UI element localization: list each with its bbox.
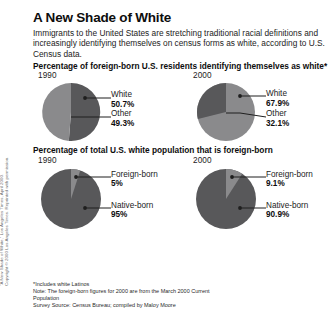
footnote-includes-latinos: *Includes white Latinos xyxy=(33,281,323,288)
slice-label-foreign-born: Foreign-born 5% xyxy=(111,170,158,189)
slice-label-other: Other 32.1% xyxy=(266,109,289,128)
chart-year-label: 1990 xyxy=(38,156,107,165)
chart-year-label: 2000 xyxy=(193,156,262,165)
section1-heading: Percentage of foreign-born U.S. resident… xyxy=(33,61,329,71)
page-title: A New Shade of White xyxy=(33,10,329,25)
leader-lines-2000-white xyxy=(226,81,302,143)
leader-lines-1990-white xyxy=(71,81,147,143)
chart-panel-2000-white: 2000 xyxy=(190,71,262,143)
slice-label-native-born: Native-born 90.9% xyxy=(266,201,308,220)
footnotes: *Includes white Latinos Note: The foreig… xyxy=(33,281,323,309)
section2-charts: 1990 Foreign-born xyxy=(33,156,329,231)
copyright-credit: "A New Shade of White," Los Angeles Time… xyxy=(0,96,15,286)
footnote-note-line2: Population xyxy=(33,295,323,302)
chart-panel-1990-white: 1990 White xyxy=(35,71,107,143)
slice-label-white: White 67.9% xyxy=(266,89,289,108)
chart-panel-1990-foreignborn: 1990 Foreign-born xyxy=(35,156,107,232)
chart-year-label: 2000 xyxy=(193,71,262,80)
chart-year-label: 1990 xyxy=(38,71,107,80)
chart-panel-2000-foreignborn: 2000 Foreign-born xyxy=(190,156,262,232)
slice-label-foreign-born: Foreign-born 9.1% xyxy=(266,170,313,189)
footnote-source: Survey Source: Census Bureau; compiled b… xyxy=(33,302,323,309)
slice-label-other: Other 49.3% xyxy=(111,109,134,128)
content-column: A New Shade of White Immigrants to the U… xyxy=(33,10,329,231)
section1-charts: 1990 White xyxy=(33,71,329,143)
infographic-page: "A New Shade of White," Los Angeles Time… xyxy=(0,0,332,329)
section2-heading: Percentage of total U.S. white populatio… xyxy=(33,145,329,155)
slice-label-white: White 50.7% xyxy=(111,90,134,109)
intro-paragraph: Immigrants to the United States are stre… xyxy=(33,28,329,59)
slice-label-native-born: Native-born 95% xyxy=(111,201,153,220)
credit-line-2: Copyright © 2000 Los Angeles Times. Repr… xyxy=(4,96,9,286)
footnote-note-line1: Note: The foreign-born figures for 2000 … xyxy=(33,288,323,295)
